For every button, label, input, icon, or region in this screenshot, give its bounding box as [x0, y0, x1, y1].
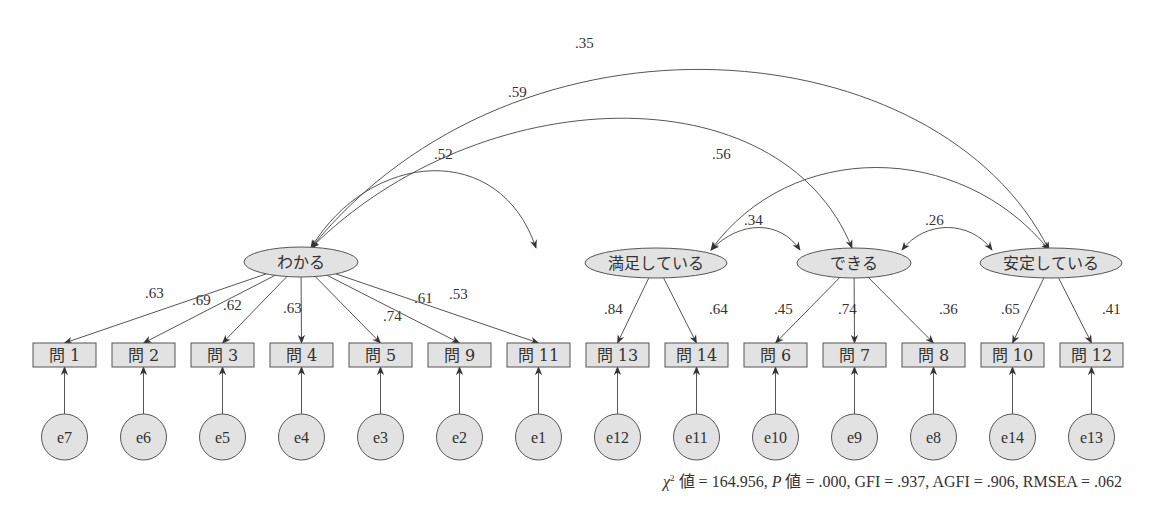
- correlation-value: .52: [434, 146, 453, 162]
- error-term-label: e5: [215, 429, 230, 446]
- correlation-arc-manzoku-dekiru: [711, 228, 800, 251]
- loading-value: .64: [709, 301, 728, 317]
- error-term-label: e7: [57, 429, 72, 446]
- error-term-label: e10: [764, 429, 787, 446]
- observed-variable-label: 問 6: [760, 346, 791, 365]
- correlation-value: .59: [508, 84, 527, 100]
- loading-value: .69: [192, 292, 211, 308]
- loading-value: .53: [449, 286, 468, 302]
- observed-variable-label: 問 1: [49, 346, 80, 365]
- loading-value: .63: [145, 285, 164, 301]
- error-term-label: e1: [531, 429, 546, 446]
- loading-value: .63: [283, 300, 302, 316]
- observed-variable-label: 問 13: [597, 346, 638, 365]
- observed-variable-label: 問 9: [444, 346, 475, 365]
- loading-value: .36: [939, 301, 958, 317]
- observed-variable-label: 問 11: [518, 346, 559, 365]
- correlation-arc-dekiru-antei: [902, 228, 992, 251]
- correlation-value: .35: [575, 35, 594, 51]
- loading-arrow: [664, 278, 697, 343]
- observed-variable-label: 問 10: [992, 346, 1033, 365]
- error-term-label: e13: [1080, 429, 1103, 446]
- loading-arrow: [1059, 278, 1092, 343]
- error-term-label: e9: [847, 429, 862, 446]
- loading-value: .74: [838, 301, 857, 317]
- observed-variable-label: 問 14: [676, 346, 717, 365]
- error-term-label: e2: [452, 429, 467, 446]
- latent-factor-label: 満足している: [608, 254, 704, 273]
- error-term-label: e3: [373, 429, 388, 446]
- error-term-label: e6: [136, 429, 151, 446]
- error-term-label: e14: [1001, 429, 1024, 446]
- observed-variable-label: 問 5: [365, 346, 396, 365]
- loading-value: .65: [1001, 301, 1020, 317]
- observed-variable-label: 問 2: [128, 346, 159, 365]
- nodes: 問 1e7問 2e6問 3e5問 4e4問 5e3問 9e2問 11e1問 13…: [33, 247, 1123, 460]
- observed-variable-label: 問 8: [918, 346, 949, 365]
- observed-variable-label: 問 3: [207, 346, 238, 365]
- sem-diagram: .35.59.52.56.34.26 .63.69.62.63.74.61.53…: [0, 0, 1154, 507]
- error-term-label: e4: [294, 429, 309, 446]
- correlation-arcs: .35.59.52.56.34.26: [311, 35, 1049, 250]
- error-term-label: e12: [606, 429, 629, 446]
- correlation-arc-wakaru-manzoku: [311, 171, 536, 248]
- latent-factor-label: 安定している: [1003, 254, 1099, 273]
- p-symbol: P: [772, 473, 782, 490]
- correlation-value: .56: [712, 146, 731, 162]
- loading-value: .45: [774, 301, 793, 317]
- loading-arrow: [868, 278, 933, 343]
- correlation-value: .26: [925, 212, 944, 228]
- observed-variable-label: 問 12: [1071, 346, 1112, 365]
- fit-indices: χ2 値 = 164.956, P 値 = .000, GFI = .937, …: [0, 468, 1122, 492]
- correlation-value: .34: [744, 212, 763, 228]
- fit-other-indices: GFI = .937, AGFI = .906, RMSEA = .062: [854, 473, 1122, 490]
- loading-arrow: [336, 274, 539, 343]
- loading-value: .74: [383, 308, 402, 324]
- error-term-label: e11: [685, 429, 708, 446]
- observed-variable-label: 問 7: [839, 346, 870, 365]
- latent-factor-label: できる: [830, 254, 878, 273]
- chi-value: 値 = 164.956,: [675, 473, 772, 490]
- loading-value: .84: [604, 301, 623, 317]
- error-term-label: e8: [926, 429, 941, 446]
- latent-factor-label: わかる: [277, 253, 325, 272]
- loading-value: .41: [1102, 301, 1121, 317]
- observed-variable-label: 問 4: [286, 346, 317, 365]
- p-value: 値 = .000,: [781, 473, 854, 490]
- loading-value: .62: [223, 297, 242, 313]
